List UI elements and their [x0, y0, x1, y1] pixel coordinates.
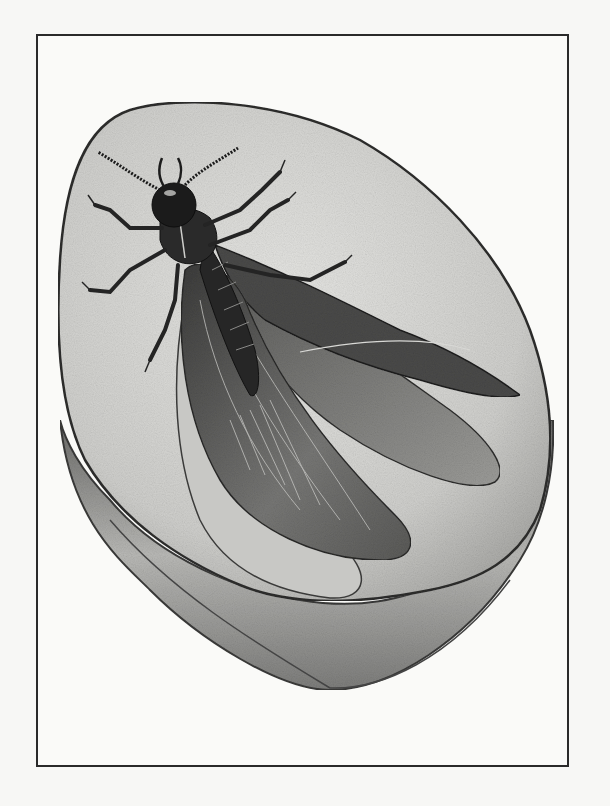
illustration-canvas: Winged insect fossil in stone — [0, 0, 610, 806]
fossil-illustration — [0, 0, 610, 806]
